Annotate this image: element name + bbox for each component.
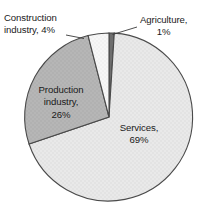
pie-label-services: Services, 69% xyxy=(111,122,167,147)
pie-label-agriculture: Agriculture, 1% xyxy=(140,14,187,39)
pie-label-construction-industry: Construction industry, 4% xyxy=(4,12,57,37)
leader-line-agriculture xyxy=(113,27,138,35)
pie-label-production-industry: Production industry, 26% xyxy=(28,84,94,121)
pie-chart: Construction industry, 4% Agriculture, 1… xyxy=(0,0,214,215)
leader-line-construction-industry xyxy=(66,35,84,39)
